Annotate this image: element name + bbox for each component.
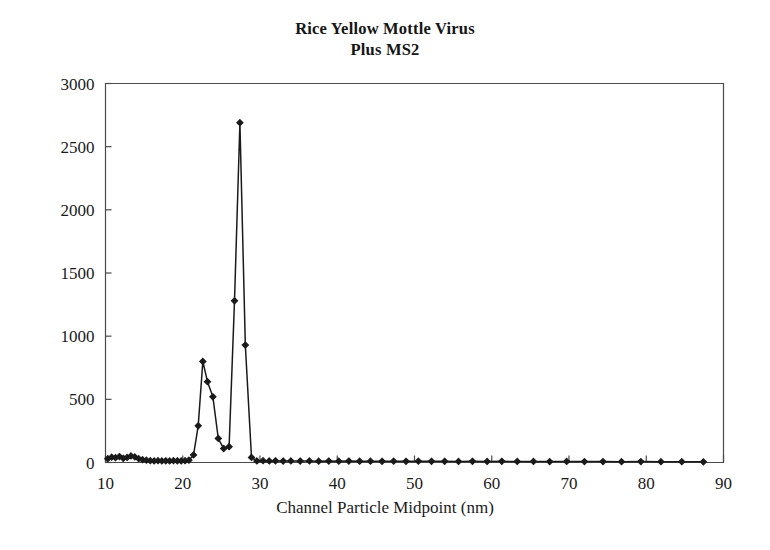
data-point-marker (600, 459, 606, 465)
chart-figure: Rice Yellow Mottle Virus Plus MS2 050010… (0, 0, 770, 550)
data-point-marker (204, 379, 210, 385)
data-point-marker (403, 458, 409, 464)
x-tick-label: 50 (406, 474, 423, 493)
axis-frame (106, 84, 724, 463)
data-point-marker (581, 459, 587, 465)
data-point-marker (280, 458, 286, 464)
data-series-line (108, 123, 704, 462)
y-tick-label: 2000 (61, 201, 95, 220)
data-point-marker (428, 458, 434, 464)
plot-area: 050010001500200025003000 102030405060708… (0, 0, 770, 550)
data-point-marker (391, 458, 397, 464)
data-point-marker (266, 458, 272, 464)
x-tick-label: 30 (252, 474, 269, 493)
data-point-marker (679, 459, 685, 465)
x-tick-label: 90 (715, 474, 732, 493)
data-point-marker (231, 298, 237, 304)
x-tick-label: 80 (638, 474, 655, 493)
data-point-marker (242, 342, 248, 348)
data-point-marker (336, 458, 342, 464)
data-point-marker (306, 458, 312, 464)
data-point-marker (215, 435, 221, 441)
data-point-marker (415, 458, 421, 464)
data-series-markers (105, 120, 707, 465)
data-point-marker (514, 458, 520, 464)
y-tick-group: 050010001500200025003000 (61, 75, 112, 473)
y-tick-label: 2500 (61, 138, 95, 157)
x-tick-label: 40 (329, 474, 346, 493)
data-point-marker (484, 458, 490, 464)
x-tick-label: 10 (97, 474, 114, 493)
data-point-marker (297, 458, 303, 464)
data-point-marker (316, 458, 322, 464)
data-point-marker (618, 459, 624, 465)
data-point-marker (379, 458, 385, 464)
data-point-marker (530, 458, 536, 464)
y-tick-label: 0 (86, 454, 95, 473)
data-point-marker (326, 458, 332, 464)
x-tick-label: 70 (561, 474, 578, 493)
y-tick-label: 3000 (61, 75, 95, 94)
data-point-marker (288, 458, 294, 464)
x-axis-title: Channel Particle Midpoint (nm) (0, 498, 770, 518)
y-tick-label: 1000 (61, 327, 95, 346)
data-point-marker (638, 459, 644, 465)
y-tick-label: 1500 (61, 264, 95, 283)
data-point-marker (499, 458, 505, 464)
data-point-marker (200, 358, 206, 364)
data-point-marker (346, 458, 352, 464)
data-point-marker (658, 459, 664, 465)
data-point-marker (700, 459, 706, 465)
data-point-marker (455, 458, 461, 464)
data-point-marker (357, 458, 363, 464)
x-tick-label: 20 (174, 474, 191, 493)
data-point-marker (442, 458, 448, 464)
data-point-marker (469, 458, 475, 464)
y-tick-label: 500 (69, 390, 95, 409)
data-point-marker (547, 459, 553, 465)
data-point-marker (237, 120, 243, 126)
data-point-marker (367, 458, 373, 464)
data-point-marker (210, 394, 216, 400)
data-point-marker (195, 423, 201, 429)
x-tick-label: 60 (483, 474, 500, 493)
